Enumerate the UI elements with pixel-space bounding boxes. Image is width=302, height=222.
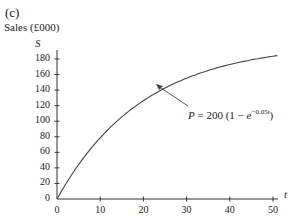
y-axis-symbol: S — [35, 37, 41, 49]
y-tick-label: 160 — [26, 68, 50, 79]
x-tick-label: 20 — [131, 204, 155, 215]
formula-close: ) — [270, 109, 274, 121]
formula-annotation: P = 200 (1 − e−0.05t) — [188, 108, 273, 121]
y-tick-label: 80 — [26, 130, 50, 141]
y-tick-label: 120 — [26, 99, 50, 110]
sales-curve — [57, 56, 277, 199]
y-tick-label: 180 — [26, 52, 50, 63]
x-tick-label: 10 — [88, 204, 112, 215]
annotation-arrow — [158, 86, 188, 106]
x-tick-label: 40 — [218, 204, 242, 215]
panel-label: (c) — [5, 5, 19, 21]
y-tick-label: 140 — [26, 83, 50, 94]
axes — [55, 50, 279, 202]
y-tick-label: 60 — [26, 145, 50, 156]
x-axis-symbol: t — [284, 188, 287, 200]
y-tick-label: 100 — [26, 114, 50, 125]
x-tick-label: 0 — [45, 204, 69, 215]
x-tick-label: 30 — [175, 204, 199, 215]
formula-exponent: −0.05t — [251, 108, 269, 116]
y-axis-title: Sales (£000) — [4, 21, 59, 33]
x-tick-label: 50 — [261, 204, 285, 215]
y-tick-label: 40 — [26, 161, 50, 172]
formula-p: P — [188, 109, 195, 121]
formula-eq: = 200 (1 − — [195, 109, 247, 121]
y-tick-label: 20 — [26, 176, 50, 187]
y-tick-label: 0 — [26, 192, 50, 203]
